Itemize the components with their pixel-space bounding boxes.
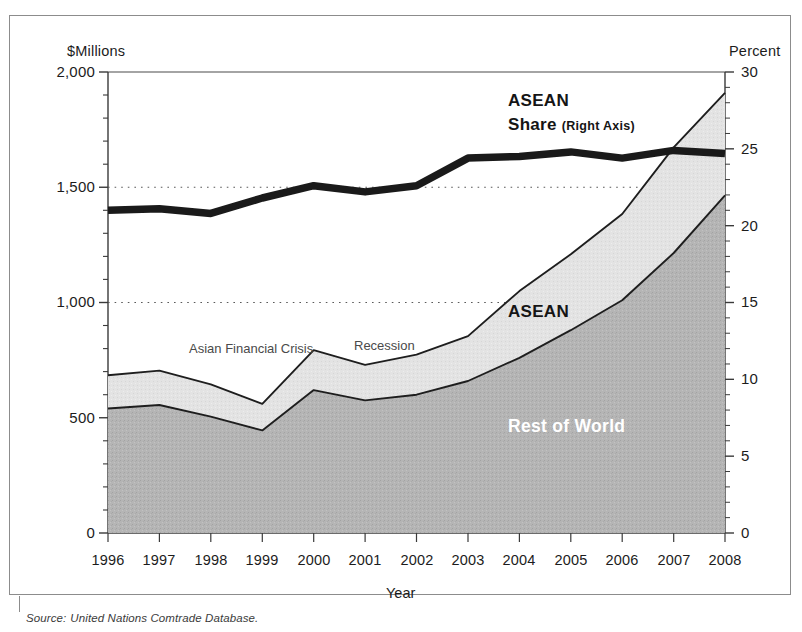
x-tick-label-1997: 1997	[129, 553, 189, 568]
y2-tick-label-0: 0	[741, 525, 750, 540]
y-tick-label-1500: 1,500	[31, 179, 95, 194]
x-axis-title: Year	[386, 586, 415, 601]
source-value: United Nations Comtrade Database.	[70, 612, 258, 624]
x-tick-label-2008: 2008	[695, 553, 755, 568]
y2-tick-label-5: 5	[741, 448, 750, 463]
y2-tick-label-30: 30	[741, 64, 758, 79]
y-tick-label-2000: 2,000	[31, 64, 95, 79]
legend-asean-share-axis-note: (Right Axis)	[562, 119, 635, 133]
y-tick-label-500: 500	[31, 410, 95, 425]
source-note: Source:United Nations Comtrade Database.	[26, 612, 258, 624]
y-axis-left-title: $Millions	[67, 44, 125, 59]
annotation-recession: Recession	[354, 339, 415, 352]
y-axis-left-ticks	[99, 72, 108, 533]
legend-asean-share-main: Share	[508, 115, 557, 134]
x-tick-label-2001: 2001	[335, 553, 395, 568]
x-axis-ticks	[108, 533, 725, 542]
y-axis-right-ticks	[725, 72, 734, 533]
y-axis-right-title: Percent	[729, 44, 780, 59]
y2-tick-label-25: 25	[741, 141, 758, 156]
legend-asean-share-line2: Share(Right Axis)	[508, 116, 635, 133]
source-label: Source:	[26, 612, 66, 624]
x-tick-label-2004: 2004	[489, 553, 549, 568]
band-label-rest-of-world: Rest of World	[508, 418, 625, 436]
band-label-asean: ASEAN	[508, 303, 569, 320]
y2-tick-label-10: 10	[741, 371, 758, 386]
annotation-asian-financial-crisis: Asian Financial Crisis	[189, 342, 313, 355]
y-tick-label-0: 0	[31, 525, 95, 540]
x-tick-label-1999: 1999	[232, 553, 292, 568]
x-tick-label-2006: 2006	[592, 553, 652, 568]
y2-tick-label-15: 15	[741, 294, 758, 309]
legend-asean-share-line1: ASEAN	[508, 92, 569, 109]
y2-tick-label-20: 20	[741, 218, 758, 233]
chart-canvas	[0, 0, 802, 632]
y-tick-label-1000: 1,000	[31, 294, 95, 309]
caption-rule	[19, 596, 20, 612]
